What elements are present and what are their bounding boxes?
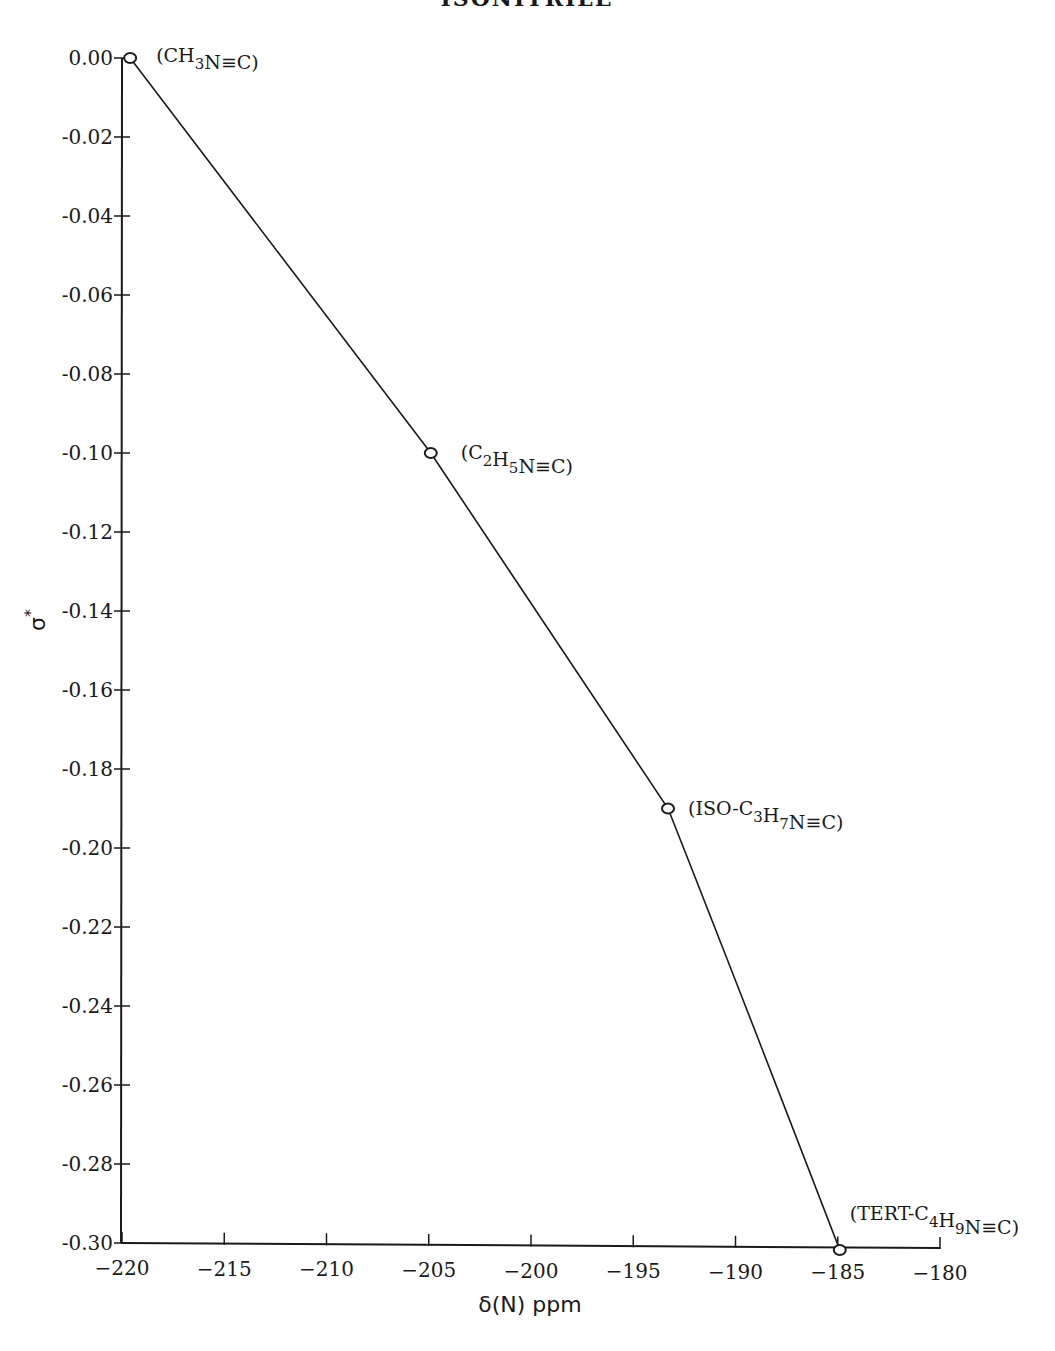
y-tick-label: -0.06 (62, 283, 113, 307)
x-tick-label: −180 (913, 1261, 968, 1285)
y-tick-label: -0.16 (62, 678, 113, 702)
y-axis-ticks: 0.00-0.02-0.04-0.06-0.08-0.10-0.12-0.14-… (62, 46, 130, 1255)
y-tick-label: -0.14 (62, 599, 113, 623)
y-tick-label: -0.22 (62, 915, 113, 939)
data-point-label: (ISO-C3H7N≡C) (688, 797, 843, 833)
y-tick-label: -0.02 (62, 125, 113, 149)
x-tick-label: −185 (810, 1260, 865, 1284)
data-point-marker (124, 53, 136, 63)
y-tick-label: -0.30 (62, 1231, 113, 1255)
x-tick-label: −220 (95, 1256, 150, 1280)
y-tick-label: -0.08 (62, 362, 113, 386)
axes (121, 58, 940, 1248)
data-point-label: (C2H5N≡C) (461, 441, 573, 477)
y-tick-label: -0.26 (62, 1073, 113, 1097)
x-tick-label: −205 (401, 1258, 456, 1282)
y-axis-line (121, 58, 122, 1243)
x-tick-label: −190 (708, 1260, 763, 1284)
y-tick-label: 0.00 (68, 46, 113, 70)
x-tick-label: −195 (606, 1259, 661, 1283)
series-line (130, 58, 840, 1250)
y-tick-label: -0.24 (62, 994, 113, 1018)
chart-title: ISONITRILE (441, 0, 614, 11)
y-tick-label: -0.20 (62, 836, 113, 860)
x-tick-label: −215 (197, 1257, 252, 1281)
data-markers (124, 53, 846, 1255)
chart: ISONITRILE 0.00-0.02-0.04-0.06-0.08-0.10… (0, 0, 1055, 1351)
data-point-label: (TERT-C4H9N≡C) (850, 1202, 1019, 1238)
data-point-marker (425, 448, 437, 458)
y-tick-label: -0.10 (62, 441, 113, 465)
point-labels: (CH3N≡C)(C2H5N≡C)(ISO-C3H7N≡C)(TERT-C4H9… (156, 44, 1019, 1238)
x-axis-title: δ(N) ppm (478, 1292, 581, 1317)
data-point-marker (834, 1245, 846, 1255)
x-tick-label: −200 (504, 1259, 559, 1283)
data-point-label: (CH3N≡C) (156, 44, 259, 73)
data-point-marker (662, 804, 674, 814)
y-tick-label: -0.18 (62, 757, 113, 781)
y-axis-title: σ* (21, 609, 50, 631)
y-tick-label: -0.28 (62, 1152, 113, 1176)
y-tick-label: -0.04 (62, 204, 113, 228)
x-tick-label: −210 (299, 1257, 354, 1281)
y-tick-label: -0.12 (62, 520, 113, 544)
